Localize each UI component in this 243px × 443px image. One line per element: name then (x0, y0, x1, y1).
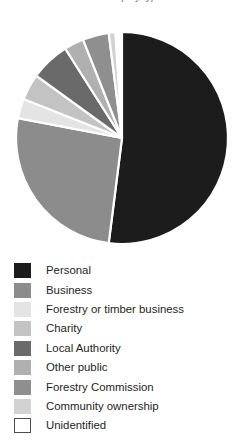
legend-item-label: Charity (46, 322, 82, 335)
pie-chart-svg (0, 24, 243, 252)
cropped-caption-text: ownership by type (0, 0, 243, 3)
legend-color-swatch (14, 399, 31, 414)
legend-item: Local Authority (14, 339, 243, 358)
chart-legend: PersonalBusinessForestry or timber busin… (14, 261, 243, 436)
legend-color-swatch (14, 321, 31, 336)
legend-color-swatch (14, 418, 31, 433)
legend-item-label: Local Authority (46, 342, 121, 355)
legend-item: Unidentified (14, 416, 243, 435)
legend-item: Business (14, 280, 243, 299)
pie-slice (109, 32, 228, 244)
legend-item-label: Business (46, 284, 92, 297)
pie-chart-figure: ownership by type PersonalBusinessForest… (0, 0, 243, 443)
legend-item-label: Forestry Commission (46, 381, 154, 394)
legend-item: Charity (14, 319, 243, 338)
legend-color-swatch (14, 360, 31, 375)
legend-item-label: Community ownership (46, 400, 159, 413)
legend-item: Community ownership (14, 397, 243, 416)
legend-color-swatch (14, 341, 31, 356)
legend-item-label: Personal (46, 264, 91, 277)
legend-color-swatch (14, 302, 31, 317)
legend-item: Forestry or timber business (14, 300, 243, 319)
legend-item: Forestry Commission (14, 377, 243, 396)
legend-item-label: Other public (46, 361, 107, 374)
legend-item: Other public (14, 358, 243, 377)
pie-slice (16, 118, 122, 243)
pie-chart-area (0, 24, 243, 252)
legend-item-label: Unidentified (46, 419, 106, 432)
legend-color-swatch (14, 380, 31, 395)
pie-slice-group (16, 32, 228, 244)
legend-item-label: Forestry or timber business (46, 303, 184, 316)
legend-color-swatch (14, 283, 31, 298)
legend-color-swatch (14, 263, 31, 278)
legend-item: Personal (14, 261, 243, 280)
